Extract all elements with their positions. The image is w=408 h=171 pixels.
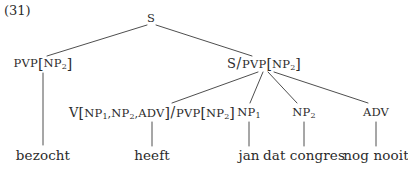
np2-subscript: 2 — [311, 111, 316, 120]
node-np2: NP2 — [292, 107, 315, 120]
node-s-slash-pvp: S/PVP[NP2] — [227, 56, 301, 71]
node-np1: NP1 — [237, 107, 260, 120]
s-pvp-close-bracket: ] — [295, 56, 301, 72]
s-pvp-numerator: S — [227, 56, 236, 71]
verb-result-inner: NP — [206, 106, 224, 120]
edge-s-pvp-to-np2 — [268, 72, 297, 103]
syntax-tree-figure: (31) S PVP[NP2] S/PVP[NP2] V[NP1,NP2,ADV… — [0, 0, 408, 171]
edge-root-to-s-pvp — [156, 25, 252, 56]
pvp-category: PVP — [13, 56, 37, 70]
edge-s-pvp-to-verb — [172, 72, 258, 103]
verb-result-close-bracket: ] — [229, 105, 235, 121]
node-verb-category: V[NP1,NP2,ADV]/PVP[NP2] — [69, 105, 235, 120]
terminal-heeft: heeft — [134, 149, 170, 163]
verb-arg1: NP — [84, 106, 102, 120]
np1-subscript: 1 — [256, 111, 261, 120]
np2-category: NP — [292, 105, 310, 119]
example-number: (31) — [4, 4, 31, 17]
tree-edges — [0, 0, 408, 171]
edge-s-pvp-to-np1 — [250, 72, 263, 103]
edge-s-pvp-to-adv — [274, 72, 368, 103]
verb-result-category: PVP — [176, 106, 200, 120]
np1-category: NP — [237, 105, 255, 119]
pvp-inner-category: NP — [44, 56, 62, 70]
adv-category: ADV — [363, 105, 389, 119]
verb-head: V — [69, 105, 79, 120]
s-pvp-inner-category: NP — [272, 57, 290, 71]
verb-arg2: NP — [111, 106, 129, 120]
root-s-text: S — [147, 11, 155, 25]
terminal-jan: jan — [238, 149, 259, 163]
verb-arg3: ADV — [138, 106, 164, 120]
terminal-bezocht: bezocht — [16, 149, 70, 163]
edge-root-to-pvp — [47, 25, 147, 56]
terminal-dat-congres: dat congres — [263, 149, 345, 163]
pvp-close-bracket: ] — [67, 56, 73, 72]
s-pvp-category: PVP — [242, 57, 266, 71]
node-pvp: PVP[NP2] — [13, 57, 72, 72]
node-adv: ADV — [363, 107, 389, 119]
node-root-s: S — [147, 13, 155, 25]
terminal-nog-nooit: nog nooit — [343, 149, 408, 163]
